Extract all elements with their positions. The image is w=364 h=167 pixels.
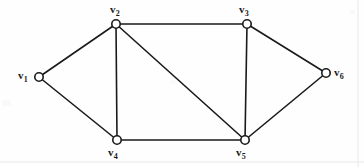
graph-vertex-v4 (113, 136, 121, 144)
graph-vertex-v2 (112, 20, 120, 28)
graph-vertex-v3 (243, 20, 251, 28)
vertex-label-v4: v4 (108, 147, 118, 161)
vertex-label-v6: v6 (334, 67, 344, 81)
graph-vertex-v5 (241, 136, 249, 144)
vertex-label-subscript-v3: 3 (245, 9, 249, 18)
graph-edge-v2-v4 (116, 24, 117, 140)
vertex-label-subscript-v1: 1 (24, 75, 28, 84)
vertex-label-base-v4: v (108, 146, 114, 158)
vertex-label-base-v6: v (334, 66, 340, 78)
graph-vertex-v1 (35, 73, 43, 81)
vertex-label-subscript-v4: 4 (114, 152, 118, 161)
vertex-label-subscript-v5: 5 (242, 152, 246, 161)
vertex-label-subscript-v2: 2 (116, 9, 120, 18)
graph-figure: v1v2v3v4v5v6 (0, 0, 364, 167)
graph-vertex-v6 (322, 69, 330, 77)
vertex-label-base-v1: v (18, 69, 24, 81)
vertex-label-base-v2: v (110, 3, 116, 15)
graph-canvas (0, 0, 364, 167)
vertex-label-v1: v1 (18, 70, 28, 84)
vertex-label-subscript-v6: 6 (340, 72, 344, 81)
vertex-label-v2: v2 (110, 4, 120, 18)
vertex-label-base-v3: v (239, 3, 245, 15)
vertex-label-v3: v3 (239, 4, 249, 18)
vertex-label-v5: v5 (236, 147, 246, 161)
vertex-label-base-v5: v (236, 146, 242, 158)
